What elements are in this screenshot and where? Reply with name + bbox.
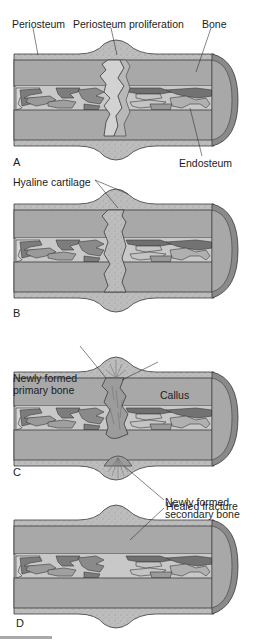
footer-rule — [0, 636, 52, 639]
panel-letter-d: D — [16, 617, 24, 629]
label-endosteum: Endosteum — [179, 157, 232, 169]
panel-d-diagram — [0, 500, 258, 640]
label-periosteum: Periosteum — [12, 18, 65, 30]
label-healed-fracture: Healed fracture — [166, 500, 238, 512]
panel-letter-a: A — [13, 156, 20, 168]
panel-letter-b: B — [13, 307, 20, 319]
panel-c-diagram — [0, 330, 258, 510]
label-hyaline-cartilage: Hyaline cartilage — [13, 176, 91, 188]
panel-letter-c: C — [13, 466, 21, 478]
panel-b-diagram — [0, 170, 258, 350]
label-newly-formed-primary-2: primary bone — [13, 384, 74, 396]
label-callus: Callus — [160, 389, 189, 401]
label-periosteum-proliferation: Periosteum proliferation — [73, 18, 184, 30]
label-newly-formed-primary-1: Newly formed — [13, 372, 77, 384]
label-bone: Bone — [202, 18, 227, 30]
